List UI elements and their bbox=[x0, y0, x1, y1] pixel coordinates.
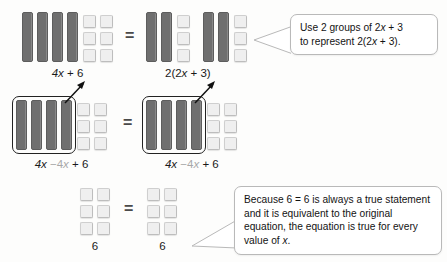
x-tile bbox=[146, 12, 157, 62]
callout-2: Because 6 = 6 is always a true statement… bbox=[234, 186, 442, 255]
x-tile-group bbox=[146, 100, 202, 150]
unit-tile bbox=[100, 49, 113, 62]
equation-row-2: 4x −4x + 6 = bbox=[16, 100, 237, 171]
row-2-left-tiles bbox=[16, 100, 107, 150]
unit-tile bbox=[207, 120, 220, 133]
x-tile bbox=[146, 100, 157, 150]
row-3-left-label: 6 bbox=[92, 241, 98, 253]
row-3-left-tiles bbox=[80, 188, 110, 235]
x-tile bbox=[161, 12, 172, 62]
unit-tile bbox=[164, 205, 177, 218]
x-tile-group bbox=[22, 12, 78, 62]
cancelled-x-tiles-right bbox=[146, 100, 202, 150]
row-1-left-label: 4x + 6 bbox=[52, 68, 84, 80]
x-tile bbox=[31, 100, 42, 150]
unit-tile-group bbox=[77, 103, 107, 150]
unit-tile bbox=[97, 188, 110, 201]
unit-tile bbox=[80, 188, 93, 201]
unit-tile bbox=[100, 32, 113, 45]
unit-tile bbox=[77, 103, 90, 116]
unit-tile-group bbox=[83, 15, 113, 62]
callout-1-tail bbox=[252, 24, 294, 56]
unit-tile bbox=[94, 103, 107, 116]
unit-tile bbox=[164, 222, 177, 235]
callout-2-line-3: equation, the equation is true for every bbox=[244, 220, 433, 234]
unit-tile bbox=[80, 205, 93, 218]
x-tile bbox=[22, 12, 33, 62]
row-1-left-label-term: 4x bbox=[52, 67, 64, 79]
unit-tile bbox=[94, 137, 107, 150]
unit-tile bbox=[224, 137, 237, 150]
row-2-right-label: 4x −4x + 6 bbox=[165, 159, 219, 171]
unit-tile bbox=[234, 32, 247, 45]
unit-tile bbox=[94, 120, 107, 133]
unit-tile bbox=[77, 137, 90, 150]
row-1-left-tiles bbox=[22, 12, 113, 62]
callout-2-line-4: value of x. bbox=[244, 234, 433, 248]
unit-tile bbox=[147, 222, 160, 235]
unit-tile bbox=[77, 120, 90, 133]
unit-tile bbox=[97, 222, 110, 235]
unit-tile-group bbox=[147, 188, 177, 235]
row-1-right-expression: 2(2x + 3) bbox=[146, 12, 247, 80]
x-tile bbox=[203, 12, 214, 62]
unit-tile bbox=[147, 188, 160, 201]
row-2-right-expression: 4x −4x + 6 bbox=[146, 100, 237, 171]
callout-2-line-1: Because 6 = 6 is always a true statement bbox=[244, 193, 433, 207]
row-2-right-tiles bbox=[146, 100, 237, 150]
x-tile bbox=[61, 100, 72, 150]
unit-tile-group bbox=[207, 103, 237, 150]
row-3-right-tiles bbox=[147, 188, 177, 235]
x-tile bbox=[161, 100, 172, 150]
x-tile bbox=[46, 100, 57, 150]
row-2-right-label-a: 4x bbox=[165, 158, 177, 170]
row-2-left-expression: 4x −4x + 6 bbox=[16, 100, 107, 171]
equals-sign-row-2: = bbox=[123, 115, 132, 149]
x-tile bbox=[16, 100, 27, 150]
unit-tile bbox=[177, 49, 190, 62]
row-3-right-label: 6 bbox=[159, 241, 165, 253]
x-tile-group bbox=[146, 12, 172, 62]
equation-row-3: 6 = 6 bbox=[80, 188, 177, 253]
unit-tile-group bbox=[234, 15, 247, 62]
cancelled-x-tiles-left bbox=[16, 100, 72, 150]
unit-tile bbox=[207, 103, 220, 116]
unit-tile bbox=[224, 120, 237, 133]
unit-tile bbox=[83, 49, 96, 62]
x-tile bbox=[67, 12, 78, 62]
unit-tile bbox=[80, 222, 93, 235]
unit-tile bbox=[224, 103, 237, 116]
unit-tile bbox=[100, 15, 113, 28]
algebra-tiles-diagram: 4x + 6 = bbox=[0, 0, 447, 262]
unit-tile bbox=[177, 15, 190, 28]
callout-1-line-1: Use 2 groups of 2x + 3 bbox=[300, 21, 429, 35]
row-2-left-label: 4x −4x + 6 bbox=[35, 159, 89, 171]
row-1-right-label-b: + 3) bbox=[187, 67, 210, 79]
row-1-right-label-a: 2(2 bbox=[165, 67, 182, 79]
equals-sign-row-3: = bbox=[124, 201, 133, 235]
row-1-right-tiles bbox=[146, 12, 247, 62]
equals-sign-row-1: = bbox=[125, 28, 134, 62]
unit-tile bbox=[234, 15, 247, 28]
callout-2-tail bbox=[190, 216, 238, 252]
row-2-left-label-c: + 6 bbox=[72, 158, 88, 170]
row-2-right-label-c: + 6 bbox=[202, 158, 218, 170]
unit-tile-group bbox=[80, 188, 110, 235]
equation-row-1: 4x + 6 = bbox=[22, 12, 247, 80]
unit-tile bbox=[177, 32, 190, 45]
tile-group-2 bbox=[203, 12, 247, 62]
callout-1-line-2: to represent 2(2x + 3). bbox=[300, 35, 429, 49]
row-2-right-label-b: −4x bbox=[180, 158, 199, 170]
unit-tile bbox=[207, 137, 220, 150]
row-1-right-label: 2(2x + 3) bbox=[165, 68, 211, 80]
x-tile bbox=[191, 100, 202, 150]
unit-tile bbox=[83, 32, 96, 45]
x-tile-group bbox=[203, 12, 229, 62]
row-1-left-label-rest: + 6 bbox=[67, 67, 83, 79]
callout-2-line-2: and it is equivalent to the original bbox=[244, 207, 433, 221]
row-3-right-expression: 6 bbox=[147, 188, 177, 253]
x-tile bbox=[176, 100, 187, 150]
x-tile bbox=[218, 12, 229, 62]
x-tile bbox=[37, 12, 48, 62]
unit-tile-group bbox=[177, 15, 190, 62]
